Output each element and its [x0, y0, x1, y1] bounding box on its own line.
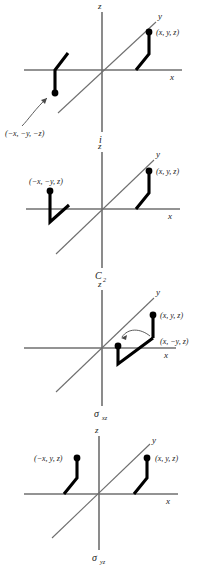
original-arm [136, 172, 149, 209]
y-axis-label: y [155, 149, 160, 159]
transformed-point-dot [74, 455, 81, 462]
symmetry-operations-figure: z y x (x, y, z) (−x, −y, −z) i z y x (x,… [0, 0, 208, 566]
x-axis-label: x [169, 72, 174, 82]
z-axis-label: z [97, 1, 102, 11]
panel-sigma-xz-diagram: z y x (x, y, z) (x, −y, z) σ xz [0, 278, 208, 420]
original-point-dot [144, 455, 151, 462]
original-point-dot [146, 29, 153, 36]
y-axis [56, 298, 154, 392]
z-axis-label: z [94, 425, 99, 435]
y-axis-label: y [157, 11, 162, 21]
panel-c2-rotation: z y x (x, y, z) (−x, −y, z) C 2 [0, 142, 208, 282]
x-axis-label: x [165, 496, 170, 506]
transformed-point-label: (−x, −y, z) [29, 177, 63, 186]
z-axis-label: z [97, 279, 102, 289]
original-point-label: (x, y, z) [155, 454, 178, 463]
transformed-point-label: (x, −y, z) [160, 337, 189, 346]
panel-c2-diagram: z y x (x, y, z) (−x, −y, z) C 2 [0, 142, 208, 282]
transformed-arm [118, 338, 153, 364]
panel-inversion-diagram: z y x (x, y, z) (−x, −y, −z) i [0, 0, 208, 145]
x-axis-label: x [163, 350, 168, 360]
z-axis-label: z [97, 141, 102, 151]
transformed-point-dot [115, 343, 122, 350]
transformed-point-dot [47, 188, 54, 195]
original-point-label: (x, y, z) [160, 311, 183, 320]
x-axis-label: x [167, 211, 172, 221]
callout-arrow-head [121, 335, 127, 340]
transformed-point-label: (−x, −y, −z) [5, 129, 45, 138]
y-axis-label: y [155, 287, 160, 297]
original-point-dot [146, 168, 153, 175]
figure-caption [0, 552, 208, 566]
original-arm [134, 459, 147, 494]
panel-inversion: z y x (x, y, z) (−x, −y, −z) i [0, 0, 208, 145]
panel-sigma-xz: z y x (x, y, z) (x, −y, z) σ xz [0, 278, 208, 420]
original-point-label: (x, y, z) [156, 167, 179, 176]
transformed-point-dot [52, 90, 59, 97]
panel-sigma-yz-diagram: z y x (x, y, z) (−x, y, z) σ yz [0, 418, 208, 566]
panel-sigma-yz: z y x (x, y, z) (−x, y, z) σ yz [0, 418, 208, 566]
y-axis-label: y [151, 435, 156, 445]
transformed-arm [55, 53, 68, 92]
original-point-label: (x, y, z) [156, 28, 179, 37]
y-axis [58, 22, 156, 113]
transformed-arm [50, 192, 69, 222]
transformed-arm [64, 459, 77, 494]
original-point-dot [150, 312, 157, 319]
transformed-point-label: (−x, y, z) [34, 454, 63, 463]
